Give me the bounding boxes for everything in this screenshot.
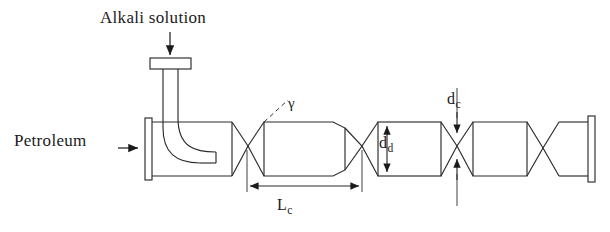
outlet-flange-plate xyxy=(588,116,595,182)
inlet-flange-plate xyxy=(145,118,152,180)
gamma-angle-label: γ xyxy=(288,95,295,112)
chamber-length-base: L xyxy=(277,196,287,213)
alkali-solution-label: Alkali solution xyxy=(100,8,206,28)
mixing-chamber-3 xyxy=(473,122,527,176)
outlet-chamber xyxy=(559,122,588,176)
throat-diameter-subscript: c xyxy=(455,98,461,110)
gamma-leader xyxy=(264,100,288,122)
chamber-length-label: Lc xyxy=(277,196,292,216)
inlet-chamber xyxy=(152,122,232,176)
throat-diameter-label: dc xyxy=(447,90,461,110)
alkali-injector-cap xyxy=(150,58,191,69)
chamber-diameter-label: dd xyxy=(379,134,393,154)
alkali-elbow-nozzle xyxy=(163,118,216,163)
chamber-length-subscript: c xyxy=(287,204,293,216)
figure-canvas: Alkali solution Petroleum γ Lc dd dc xyxy=(0,0,610,232)
venturi-throat-2 xyxy=(345,122,378,176)
chamber-diameter-subscript: d xyxy=(387,142,393,154)
venturi-throat-4 xyxy=(527,122,559,176)
venturi-throat-1 xyxy=(232,122,264,176)
equipment-schematic xyxy=(0,0,610,232)
alkali-downcomer-tube xyxy=(163,69,178,128)
petroleum-label: Petroleum xyxy=(14,131,87,151)
mixing-chamber-1 xyxy=(264,122,345,176)
chamber-diameter-base: d xyxy=(379,134,387,151)
throat-diameter-base: d xyxy=(447,90,455,107)
